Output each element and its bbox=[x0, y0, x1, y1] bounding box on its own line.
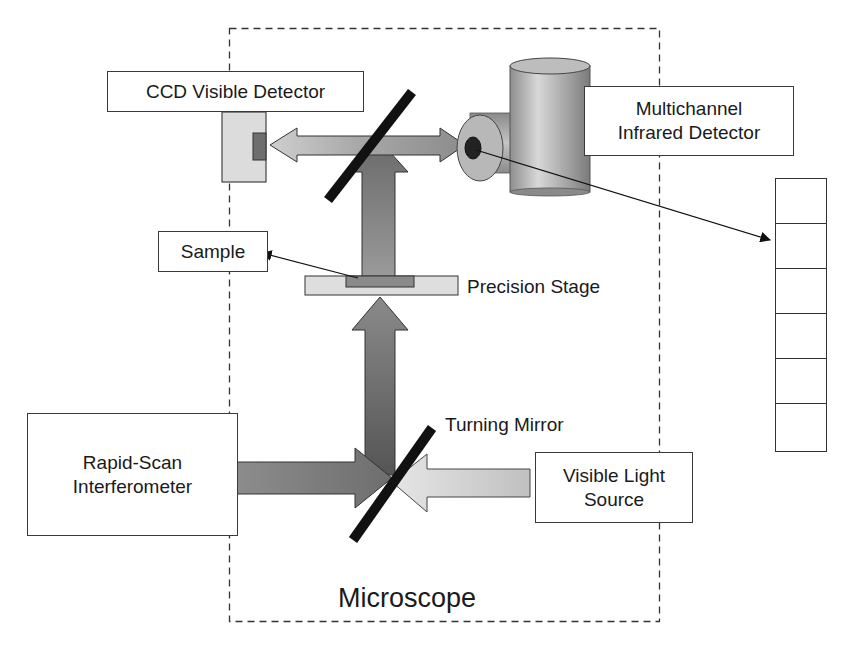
microscope-label: Microscope bbox=[338, 583, 476, 614]
sample-label: Sample bbox=[158, 231, 268, 272]
interferometer-text-1: Rapid-Scan bbox=[83, 451, 182, 475]
ccd-detector-text: CCD Visible Detector bbox=[146, 80, 325, 104]
interferometer-label: Rapid-Scan Interferometer bbox=[27, 413, 238, 536]
sample-text: Sample bbox=[181, 240, 245, 264]
array-cell bbox=[775, 268, 827, 314]
array-cell bbox=[775, 403, 827, 452]
beam-mirror-to-stage bbox=[352, 297, 408, 475]
array-cell bbox=[775, 223, 827, 269]
light-source-label: Visible Light Source bbox=[535, 452, 693, 523]
ccd-detector-label: CCD Visible Detector bbox=[107, 71, 364, 112]
interferometer-text-2: Interferometer bbox=[73, 475, 192, 499]
array-cell bbox=[775, 313, 827, 359]
light-source-text-2: Source bbox=[584, 488, 644, 512]
array-cell bbox=[775, 178, 827, 224]
sample-callout-arrow bbox=[262, 253, 358, 278]
ir-detector-label: Multichannel Infrared Detector bbox=[584, 86, 794, 156]
ir-detector-text-1: Multichannel bbox=[636, 97, 743, 121]
array-cell bbox=[775, 358, 827, 404]
detector-array bbox=[775, 178, 827, 453]
ccd-sensor bbox=[253, 133, 266, 160]
light-source-text-1: Visible Light bbox=[563, 464, 665, 488]
turning-mirror-label: Turning Mirror bbox=[445, 414, 564, 436]
ir-detector-graphic bbox=[457, 58, 590, 196]
ir-detector-text-2: Infrared Detector bbox=[618, 121, 761, 145]
precision-stage-label: Precision Stage bbox=[467, 276, 600, 298]
